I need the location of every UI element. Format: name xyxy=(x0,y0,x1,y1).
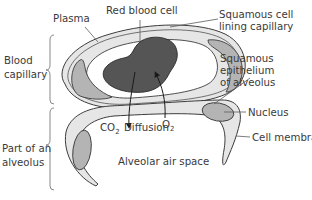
label-squamous-epi-3: of alveolus xyxy=(220,77,275,88)
label-squamous-cell-2: lining capillary xyxy=(219,21,293,32)
label-part-2: alveolus xyxy=(2,157,44,168)
label-nucleus: Nucleus xyxy=(248,107,289,118)
label-cell-membrane: Cell membrane xyxy=(252,132,312,143)
label-plasma: Plasma xyxy=(53,13,90,24)
cell-membrane-leader xyxy=(236,136,250,137)
label-diffusion: Diffusion xyxy=(124,122,169,133)
label-squamous-epi-1: Squamous xyxy=(220,53,274,64)
label-red-blood-cell: Red blood cell xyxy=(106,5,178,16)
label-squamous-epi-2: epithelium xyxy=(220,65,274,76)
label-part-1: Part of an xyxy=(2,143,51,154)
gas-exchange-diagram: Plasma Red blood cell Squamous cell lini… xyxy=(0,0,312,200)
label-blood-2: capillary xyxy=(4,69,47,80)
label-co2: CO2 xyxy=(100,122,120,136)
label-squamous-cell-1: Squamous cell xyxy=(219,9,293,20)
plasma-leader xyxy=(85,27,98,42)
label-blood-1: Blood xyxy=(4,55,33,66)
label-alveolar-air-space: Alveolar air space xyxy=(118,156,209,167)
alveolus xyxy=(65,100,240,186)
